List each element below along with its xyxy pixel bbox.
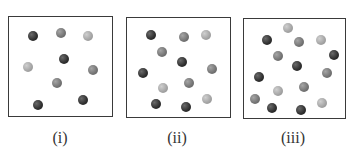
particle-dark (146, 30, 156, 40)
particle-medium (207, 64, 217, 74)
particle-medium (157, 47, 167, 57)
particle-light (23, 62, 33, 72)
particle-light (317, 98, 327, 108)
particle-medium (56, 28, 66, 38)
particle-dark (33, 100, 43, 110)
particle-medium (273, 51, 283, 61)
particle-medium (88, 65, 98, 75)
particle-dark (296, 105, 306, 115)
particle-dark (177, 57, 187, 67)
panel-label-3: (iii) (281, 129, 305, 147)
particle-light (201, 30, 211, 40)
particle-light (283, 23, 293, 33)
particle-dark (329, 50, 339, 60)
particle-light (316, 35, 326, 45)
particle-dark (262, 35, 272, 45)
particle-dark (78, 95, 88, 105)
particle-medium (322, 68, 332, 78)
panel-label-1: (i) (52, 129, 67, 147)
particle-dark (138, 68, 148, 78)
particle-medium (52, 78, 62, 88)
particle-dark (254, 72, 264, 82)
particle-light (83, 31, 93, 41)
particle-light (202, 94, 212, 104)
particle-light (273, 86, 283, 96)
particle-medium (184, 78, 194, 88)
particle-dark (181, 102, 191, 112)
particle-dark (151, 99, 161, 109)
particle-light (158, 83, 168, 93)
particle-dark (292, 61, 302, 71)
panel-label-2: (ii) (167, 129, 187, 147)
particle-medium (179, 32, 189, 42)
particle-dark (28, 31, 38, 41)
particle-medium (250, 94, 260, 104)
particle-medium (299, 82, 309, 92)
particle-medium (294, 37, 304, 47)
particle-dark (59, 54, 69, 64)
particle-dark (267, 103, 277, 113)
